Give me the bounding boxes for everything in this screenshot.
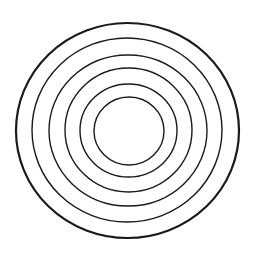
concentric-circles-diagram: [0, 0, 255, 258]
